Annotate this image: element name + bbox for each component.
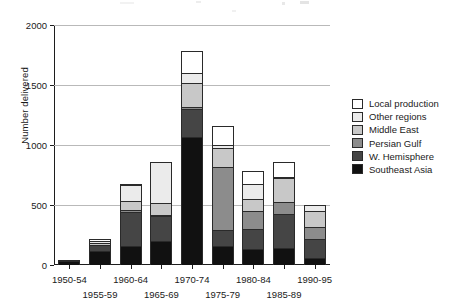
x-tick-1980-84: [253, 265, 254, 269]
bar-segment-1960-64-southeast-asia: [120, 246, 142, 265]
legend-label: Persian Gulf: [369, 138, 421, 149]
legend-label: W. Hemisphere: [369, 151, 434, 162]
x-tick-1975-79: [223, 265, 224, 269]
legend-swatch-icon: [352, 138, 363, 148]
x-tick-1950-54: [69, 265, 70, 269]
bar-segment-1985-89-southeast-asia: [273, 248, 295, 265]
y-tick-label-1500: 1500: [26, 80, 47, 91]
bar-segment-1980-84-middle-east: [242, 199, 264, 212]
bar-segment-1975-79-southeast-asia: [212, 246, 234, 265]
bar-segment-1980-84-other-regions: [242, 184, 264, 200]
bar-segment-1985-89-persian-gulf: [273, 202, 295, 215]
x-tick-1985-89: [284, 265, 285, 269]
x-tick-1990-95: [315, 265, 316, 269]
legend-swatch-icon: [352, 99, 363, 109]
bar-segment-1970-74-w-hemisphere: [181, 109, 203, 138]
bar-segment-1970-74-local-production: [181, 51, 203, 74]
legend-swatch-icon: [352, 112, 363, 122]
legend-item-southeast-asia[interactable]: Southeast Asia: [352, 163, 456, 176]
bar-segment-1970-74-southeast-asia: [181, 137, 203, 265]
scan-artifact-speckles: [0, 0, 458, 14]
bar-segment-1975-79-local-production: [212, 126, 234, 146]
bar-segment-1980-84-local-production: [242, 171, 264, 184]
bar-segment-1990-95-persian-gulf: [304, 227, 326, 240]
legend-label: Southeast Asia: [369, 164, 432, 175]
legend-label: Middle East: [369, 124, 419, 135]
y-tick-label-1000: 1000: [26, 140, 47, 151]
bar-segment-1980-84-southeast-asia: [242, 249, 264, 265]
chart-legend: Local productionOther regionsMiddle East…: [352, 97, 456, 176]
bar-1980-84: [242, 171, 264, 265]
gridline-2000: [54, 25, 330, 26]
bar-segment-1965-69-other-regions: [150, 162, 172, 204]
bar-1960-64: [120, 184, 142, 265]
legend-item-w-hemisphere[interactable]: W. Hemisphere: [352, 150, 456, 163]
legend-item-other-regions[interactable]: Other regions: [352, 110, 456, 123]
bar-segment-1960-64-other-regions: [120, 185, 142, 202]
bar-segment-1985-89-w-hemisphere: [273, 214, 295, 248]
y-tick-label-2000: 2000: [26, 20, 47, 31]
x-tick-1970-74: [192, 265, 193, 269]
bar-segment-1965-69-w-hemisphere: [150, 216, 172, 242]
bar-segment-1985-89-middle-east: [273, 178, 295, 203]
x-tick-1965-69: [161, 265, 162, 269]
x-axis-label-1980-84: 1980-84: [226, 274, 280, 285]
bar-segment-1990-95-southeast-asia: [304, 258, 326, 265]
x-axis-label-1985-89: 1985-89: [257, 289, 311, 300]
y-tick-1000: [50, 145, 54, 146]
x-axis-label-1970-74: 1970-74: [165, 274, 219, 285]
x-axis-label-1960-64: 1960-64: [104, 274, 158, 285]
y-tick-label-500: 500: [31, 200, 47, 211]
bar-1970-74: [181, 51, 203, 265]
bar-segment-1975-79-middle-east: [212, 148, 234, 168]
legend-swatch-icon: [352, 164, 363, 174]
bar-1965-69: [150, 162, 172, 265]
bar-segment-1990-95-w-hemisphere: [304, 239, 326, 258]
legend-item-middle-east[interactable]: Middle East: [352, 123, 456, 136]
bar-1975-79: [212, 126, 234, 265]
x-axis-label-1990-95: 1990-95: [288, 274, 342, 285]
bar-segment-1990-95-middle-east: [304, 211, 326, 228]
bar-segment-1970-74-middle-east: [181, 83, 203, 107]
legend-swatch-icon: [352, 125, 363, 135]
bar-segment-1975-79-persian-gulf: [212, 167, 234, 231]
x-tick-1955-59: [100, 265, 101, 269]
x-tick-1960-64: [131, 265, 132, 269]
x-axis-label-1955-59: 1955-59: [73, 289, 127, 300]
y-axis-title: Number delivered: [19, 41, 30, 171]
chart-figure: Number delivered 0500100015002000 1950-5…: [0, 0, 458, 307]
bar-1985-89: [273, 162, 295, 265]
bar-segment-1980-84-persian-gulf: [242, 211, 264, 229]
x-axis-label-1975-79: 1975-79: [196, 289, 250, 300]
bar-segment-1985-89-local-production: [273, 162, 295, 178]
legend-label: Other regions: [369, 111, 427, 122]
y-tick-label-0: 0: [42, 260, 47, 271]
bar-segment-1980-84-w-hemisphere: [242, 229, 264, 250]
y-tick-500: [50, 205, 54, 206]
bar-segment-1965-69-southeast-asia: [150, 241, 172, 265]
y-tick-2000: [50, 25, 54, 26]
y-tick-1500: [50, 85, 54, 86]
y-tick-0: [50, 265, 54, 266]
legend-swatch-icon: [352, 151, 363, 161]
bar-segment-1960-64-w-hemisphere: [120, 212, 142, 247]
x-axis-label-1965-69: 1965-69: [134, 289, 188, 300]
legend-label: Local production: [369, 98, 439, 109]
bar-1990-95: [304, 205, 326, 265]
bar-segment-1955-59-southeast-asia: [89, 251, 111, 265]
legend-item-local-production[interactable]: Local production: [352, 97, 456, 110]
x-axis-label-1950-54: 1950-54: [42, 274, 96, 285]
bar-segment-1965-69-middle-east: [150, 203, 172, 215]
legend-item-persian-gulf[interactable]: Persian Gulf: [352, 137, 456, 150]
bar-segment-1975-79-w-hemisphere: [212, 230, 234, 246]
plot-area: 0500100015002000: [54, 25, 330, 265]
bar-1955-59: [89, 239, 111, 265]
